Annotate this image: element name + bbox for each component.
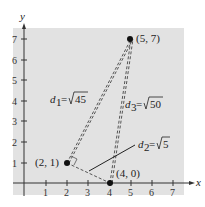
point-label: (5, 7) [136, 32, 160, 45]
x-tick-label: 3 [85, 187, 90, 198]
y-tick-label: 2 [12, 137, 17, 148]
y-tick-label: 3 [12, 116, 17, 127]
svg-text:=: = [61, 93, 67, 105]
y-axis-label: y [19, 10, 25, 22]
y-axis-arrow-icon [22, 23, 26, 29]
x-axis-arrow-icon [189, 181, 195, 185]
plot-area [13, 28, 184, 195]
x-tick-label: 7 [170, 187, 175, 198]
x-tick-label: 5 [128, 187, 133, 198]
x-axis-label: x [195, 176, 201, 188]
point-label: (2, 1) [35, 156, 59, 169]
y-tick-label: 7 [12, 34, 17, 45]
point-2-1 [64, 160, 70, 166]
svg-text:5: 5 [163, 138, 169, 150]
svg-text:=: = [149, 138, 155, 150]
y-tick-label: 4 [12, 96, 17, 107]
point-5-7 [127, 36, 133, 42]
x-tick-label: 1 [43, 187, 48, 198]
x-tick-label: 2 [64, 187, 69, 198]
svg-text:45: 45 [75, 93, 87, 105]
point-label: (4, 0) [116, 167, 140, 180]
x-tick-label: 6 [149, 187, 154, 198]
y-tick-label: 6 [12, 55, 17, 66]
point-4-0 [107, 180, 113, 186]
x-tick-label: 4 [107, 187, 112, 198]
svg-text:50: 50 [150, 98, 162, 110]
y-tick-label: 1 [12, 158, 17, 169]
y-tick-label: 5 [12, 75, 17, 86]
distance-diagram: x y 1 2 3 4 5 6 7 1 2 3 4 5 6 7 [0, 0, 205, 207]
svg-text:=: = [136, 98, 142, 110]
